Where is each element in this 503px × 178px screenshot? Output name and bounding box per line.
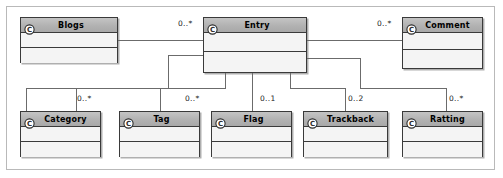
svg-text:C: C [210,26,215,34]
multiplicity-entry-trackback: 0..2 [348,94,364,103]
uml-class-icon: C [406,114,417,125]
operations-compartment [403,50,482,68]
operations-compartment [204,52,306,72]
attributes-compartment [120,127,199,142]
class-header-comment: C Comment [403,18,482,33]
svg-text:C: C [27,120,32,128]
class-box-trackback[interactable]: C Trackback [303,111,388,157]
svg-text:C: C [27,26,32,34]
operations-compartment [403,142,482,157]
class-box-blogs[interactable]: C Blogs [20,17,118,63]
class-box-entry[interactable]: C Entry [203,17,307,73]
multiplicity-entry-comment: 0..* [377,19,392,28]
uml-class-icon: C [24,114,35,125]
svg-text:C: C [310,120,315,128]
class-header-ratting: C Ratting [403,112,482,127]
operations-compartment [304,142,387,157]
svg-text:C: C [409,120,414,128]
operations-compartment [21,48,117,63]
class-name-trackback: Trackback [318,113,387,126]
svg-text:C: C [409,26,414,34]
attributes-compartment [204,33,306,52]
class-box-tag[interactable]: C Tag [119,111,200,157]
class-name-blogs: Blogs [35,19,117,32]
class-header-entry: C Entry [204,18,306,33]
attributes-compartment [304,127,387,142]
uml-class-icon: C [307,114,318,125]
uml-class-icon: C [24,20,35,31]
class-name-ratting: Ratting [417,113,482,126]
class-name-category: Category [35,113,100,126]
attributes-compartment [21,127,100,142]
operations-compartment [120,142,199,157]
uml-class-icon: C [123,114,134,125]
class-header-trackback: C Trackback [304,112,387,127]
uml-class-icon: C [215,114,226,125]
svg-text:C: C [126,120,131,128]
class-header-blogs: C Blogs [21,18,117,33]
multiplicity-entry-category: 0..* [77,94,92,103]
multiplicity-entry-tag: 0..* [185,94,200,103]
attributes-compartment [403,127,482,142]
operations-compartment [212,142,291,157]
uml-class-icon: C [406,20,417,31]
class-header-flag: C Flag [212,112,291,127]
class-name-flag: Flag [226,113,291,126]
class-header-category: C Category [21,112,100,127]
attributes-compartment [212,127,291,142]
class-box-comment[interactable]: C Comment [402,17,483,69]
attributes-compartment [403,33,482,50]
class-name-comment: Comment [417,19,482,32]
class-box-category[interactable]: C Category [20,111,101,157]
attributes-compartment [21,33,117,48]
uml-class-icon: C [207,20,218,31]
multiplicity-entry-flag: 0..1 [260,94,276,103]
svg-text:C: C [218,120,223,128]
class-name-entry: Entry [218,19,306,32]
operations-compartment [21,142,100,157]
class-box-flag[interactable]: C Flag [211,111,292,157]
class-name-tag: Tag [134,113,199,126]
multiplicity-blogs-entry: 0..* [178,19,193,28]
uml-class-diagram: C Blogs C Entry C [0,0,503,178]
class-header-tag: C Tag [120,112,199,127]
multiplicity-entry-ratting: 0..* [449,94,464,103]
class-box-ratting[interactable]: C Ratting [402,111,483,157]
